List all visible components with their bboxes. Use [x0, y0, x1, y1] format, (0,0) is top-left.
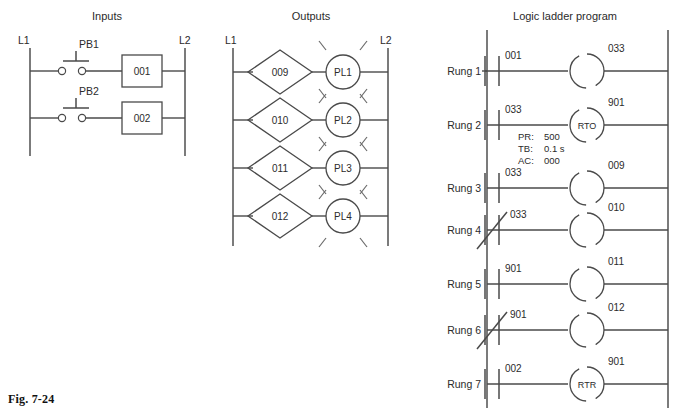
pl4-ray-upper-right-icon — [360, 185, 367, 194]
ladder-rung-3: Rung 3 033 009 — [447, 160, 668, 205]
rung-4-coil-icon — [570, 213, 604, 247]
rung-5-contact-address: 901 — [505, 263, 522, 274]
outputs-row-pl4: 012 PL4 — [233, 185, 388, 247]
ladder-rung-4: Rung 4 033 010 — [447, 202, 668, 249]
rung-2-instruction-label: RTO — [578, 121, 597, 131]
rung-7-instruction-label: RTR — [578, 380, 597, 390]
rung-4-output-address: 010 — [608, 202, 625, 213]
ladder-rung-6: Rung 6 901 012 — [447, 302, 668, 349]
rung-6-contact-address: 901 — [510, 309, 527, 320]
ladder-rung-5: Rung 5 901 011 — [447, 256, 668, 301]
rung-1-output-address: 033 — [608, 43, 625, 54]
input-module-002-label: 002 — [134, 113, 151, 124]
rung-6-coil-icon — [570, 313, 604, 347]
pl3-ray-upper-left-icon — [319, 137, 326, 146]
pl2-ray-upper-right-icon — [360, 89, 367, 98]
rung-4-label: Rung 4 — [447, 224, 481, 236]
rung-2-preset-value: 500 — [544, 131, 560, 142]
plc-ladder-figure: Inputs L1 L2 PB1 001 PB2 — [0, 0, 693, 416]
rung-1-coil-icon — [570, 54, 604, 88]
pilot-light-pl2-label: PL2 — [334, 115, 352, 126]
pl3-ray-lower-left-icon — [319, 190, 326, 199]
ladder-panel: Logic ladder program Rung 1 001 033 Rung… — [415, 0, 693, 416]
pb2-terminal-left-icon — [58, 114, 65, 121]
rung-7-label: Rung 7 — [447, 378, 481, 390]
input-module-001-label: 001 — [134, 66, 151, 77]
rung-7-contact-address: 002 — [505, 363, 522, 374]
figure-caption: Fig. 7-24 — [8, 392, 54, 407]
outputs-row-pl3: 011 PL3 — [233, 137, 388, 199]
outputs-row-pl2: 010 PL2 — [233, 89, 388, 151]
rung-3-label: Rung 3 — [447, 182, 481, 194]
rung-3-output-address: 009 — [608, 160, 625, 171]
inputs-left-rail-label: L1 — [18, 34, 30, 46]
rung-6-label: Rung 6 — [447, 324, 481, 336]
inputs-row-pb1: PB1 001 — [30, 38, 185, 87]
ladder-rung-7: Rung 7 002 RTR 901 — [447, 356, 668, 401]
pb1-label: PB1 — [79, 38, 99, 50]
pb2-label: PB2 — [79, 85, 99, 97]
rung-3-contact-address: 033 — [505, 167, 522, 178]
outputs-panel-title: Outputs — [292, 10, 331, 22]
ladder-rung-2: Rung 2 033 RTO 901 PR: 500 TB: 0.1 s AC:… — [447, 97, 668, 166]
outputs-right-rail-label: L2 — [380, 34, 392, 46]
rung-2-contact-address: 033 — [505, 104, 522, 115]
pl1-ray-upper-right-icon — [360, 41, 367, 50]
output-module-012-label: 012 — [272, 211, 289, 222]
rung-2-label: Rung 2 — [447, 119, 481, 131]
rung-2-accumulated-label: AC: — [518, 155, 534, 166]
inputs-row-pb2: PB2 002 — [30, 85, 185, 134]
pl1-ray-lower-right-icon — [360, 94, 367, 103]
rung-1-contact-address: 001 — [505, 50, 522, 61]
ladder-rung-1: Rung 1 001 033 — [447, 43, 668, 88]
rung-1-label: Rung 1 — [447, 65, 481, 77]
outputs-row-pl1: 009 PL1 — [233, 41, 388, 103]
pilot-light-pl3-label: PL3 — [334, 163, 352, 174]
pb1-terminal-left-icon — [58, 67, 65, 74]
ladder-panel-title: Logic ladder program — [513, 10, 617, 22]
pl2-ray-upper-left-icon — [319, 89, 326, 98]
rung-6-output-address: 012 — [608, 302, 625, 313]
inputs-panel-title: Inputs — [92, 10, 122, 22]
output-module-009-label: 009 — [272, 67, 289, 78]
pl4-ray-upper-left-icon — [319, 185, 326, 194]
pilot-light-pl4-label: PL4 — [334, 211, 352, 222]
rung-5-coil-icon — [570, 267, 604, 301]
pl1-ray-upper-left-icon — [319, 41, 326, 50]
rung-5-label: Rung 5 — [447, 278, 481, 290]
rung-5-output-address: 011 — [608, 256, 624, 267]
rung-4-contact-address: 033 — [510, 209, 527, 220]
output-module-010-label: 010 — [272, 115, 289, 126]
pl2-ray-lower-right-icon — [360, 142, 367, 151]
inputs-panel: Inputs L1 L2 PB1 001 PB2 — [0, 0, 215, 416]
pl4-ray-lower-right-icon — [360, 238, 367, 247]
pl3-ray-upper-right-icon — [360, 137, 367, 146]
pl3-ray-lower-right-icon — [360, 190, 367, 199]
rung-2-output-address: 901 — [608, 97, 625, 108]
rung-2-preset-label: PR: — [518, 131, 534, 142]
output-module-011-label: 011 — [272, 163, 288, 174]
inputs-right-rail-label: L2 — [179, 34, 191, 46]
pl2-ray-lower-left-icon — [319, 142, 326, 151]
rung-7-output-address: 901 — [608, 356, 625, 367]
pl4-ray-lower-left-icon — [319, 238, 326, 247]
pl1-ray-lower-left-icon — [319, 94, 326, 103]
pilot-light-pl1-label: PL1 — [334, 67, 352, 78]
outputs-left-rail-label: L1 — [225, 34, 237, 46]
rung-3-coil-icon — [570, 171, 604, 205]
pb2-terminal-right-icon — [78, 114, 85, 121]
outputs-panel: Outputs L1 L2 009 PL1 010 PL2 — [218, 0, 413, 416]
pb1-terminal-right-icon — [78, 67, 85, 74]
rung-2-timebase-label: TB: — [518, 143, 533, 154]
rung-2-accumulated-value: 000 — [544, 155, 560, 166]
rung-2-timebase-value: 0.1 s — [544, 143, 565, 154]
